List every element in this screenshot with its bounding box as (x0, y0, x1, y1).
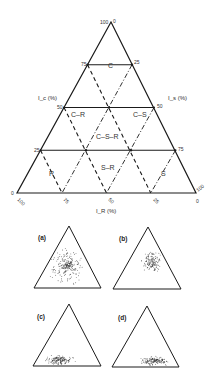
panel-c: (c) (33, 304, 101, 366)
bottom-axis-label: I_R (%) (96, 208, 116, 214)
svg-text:(b): (b) (119, 235, 127, 243)
dashed-lines (41, 65, 151, 193)
region-c-r: C–R (71, 111, 85, 118)
region-s-r: S–R (101, 164, 115, 171)
svg-text:100: 100 (195, 183, 205, 193)
right-axis-label: I_s (%) (168, 95, 187, 101)
ternary-diagram: 100 75 50 25 0 0 25 50 75 100 100 75 50 … (0, 0, 216, 381)
region-s: S (161, 170, 166, 177)
region-c-s-r: C–S–R (96, 133, 119, 140)
svg-text:(d): (d) (118, 314, 126, 322)
bottom-axis-ticks: 100 75 50 25 0 (16, 196, 199, 206)
svg-text:75: 75 (62, 196, 70, 204)
svg-text:(c): (c) (37, 313, 45, 321)
right-axis-ticks: 0 25 50 75 100 (113, 18, 205, 193)
svg-text:50: 50 (157, 103, 163, 109)
svg-text:0: 0 (113, 18, 116, 24)
svg-text:25: 25 (134, 59, 140, 65)
svg-text:25: 25 (152, 196, 160, 204)
region-labels: C C–R C–S C–S–R S–R R S (49, 62, 166, 177)
svg-text:100: 100 (16, 196, 26, 206)
panel-a: (a) (34, 226, 101, 288)
svg-text:50: 50 (107, 196, 115, 204)
svg-text:25: 25 (34, 147, 40, 153)
svg-text:75: 75 (81, 61, 87, 67)
svg-text:0: 0 (196, 198, 199, 204)
svg-text:75: 75 (178, 146, 184, 152)
svg-text:0: 0 (11, 190, 14, 196)
region-c: C (108, 62, 113, 69)
svg-text:100: 100 (100, 19, 109, 25)
left-axis-label: I_c (%) (38, 95, 57, 101)
panel-b: (b) (113, 227, 181, 289)
region-r: R (49, 170, 54, 177)
panel-d: (d) (112, 306, 179, 367)
region-c-s: C–S (133, 111, 147, 118)
svg-text:50: 50 (57, 104, 63, 110)
svg-text:(a): (a) (38, 234, 46, 242)
